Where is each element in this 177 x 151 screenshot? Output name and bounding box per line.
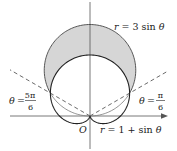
svg-text:θ: θ bbox=[9, 95, 15, 106]
label-pi-6: θ = π 6 bbox=[139, 91, 165, 112]
svg-text:6: 6 bbox=[158, 103, 163, 112]
label-5pi-6: θ = 5π 6 bbox=[9, 91, 36, 112]
svg-text:=: = bbox=[147, 95, 155, 106]
svg-text:π: π bbox=[158, 91, 163, 100]
x-axis-arrow-icon bbox=[161, 113, 168, 118]
origin-label: O bbox=[79, 124, 87, 135]
circle-label: r = 3 sin θ bbox=[114, 21, 165, 32]
cardioid-label: r = 1 + sin θ bbox=[100, 124, 162, 135]
svg-text:5π: 5π bbox=[25, 91, 35, 100]
svg-text:θ: θ bbox=[139, 95, 145, 106]
svg-text:6: 6 bbox=[28, 103, 33, 112]
polar-diagram: r = 3 sin θ r = 1 + sin θ O θ = 5π 6 θ =… bbox=[0, 0, 177, 151]
svg-text:=: = bbox=[17, 95, 25, 106]
